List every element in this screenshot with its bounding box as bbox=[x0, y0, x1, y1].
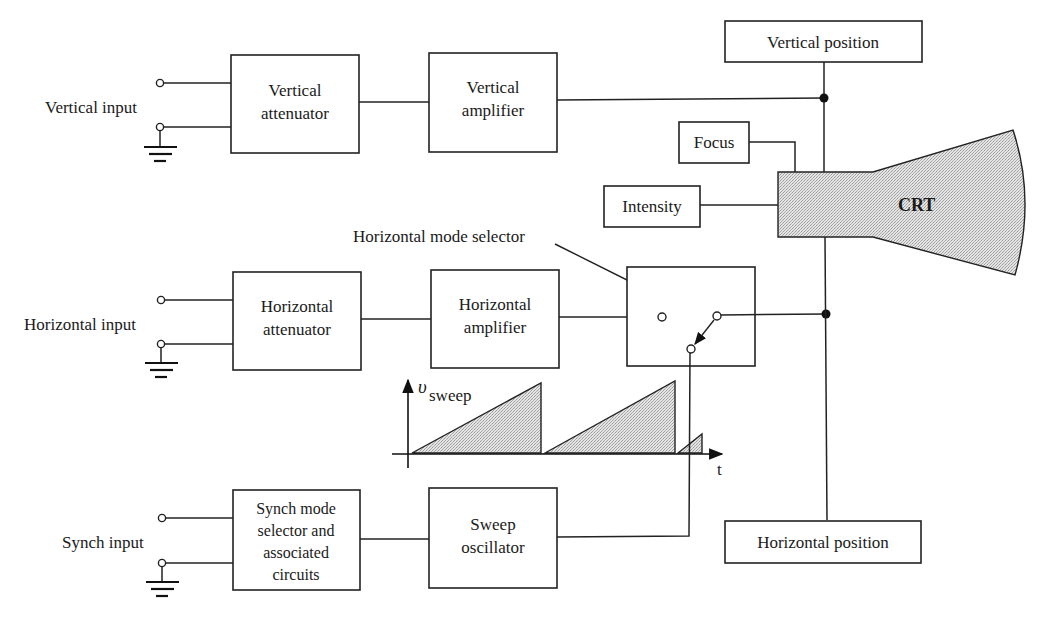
synch-mode-label-3: associated bbox=[263, 544, 329, 561]
horizontal-mode-selector-label: Horizontal mode selector bbox=[353, 227, 525, 246]
focus-block: Focus bbox=[679, 122, 749, 163]
sweep-oscillator-label-2: oscillator bbox=[461, 538, 525, 557]
focus-label: Focus bbox=[694, 133, 735, 152]
horizontal-position-block: Horizontal position bbox=[725, 521, 921, 563]
horizontal-attenuator-label-1: Horizontal bbox=[261, 297, 334, 316]
switch-terminal-amplifier bbox=[658, 313, 666, 321]
horizontal-attenuator-block: Horizontal attenuator bbox=[233, 272, 361, 370]
vertical-input-terminals bbox=[144, 79, 231, 161]
horizontal-amplifier-label-1: Horizontal bbox=[459, 295, 532, 314]
intensity-label: Intensity bbox=[622, 197, 682, 216]
vertical-attenuator-label-2: attenuator bbox=[261, 104, 329, 123]
vertical-position-block: Vertical position bbox=[725, 21, 922, 62]
synch-mode-label-4: circuits bbox=[272, 566, 319, 583]
ground-icon bbox=[145, 348, 178, 377]
horizontal-mode-selector-block bbox=[627, 267, 755, 366]
x-axis-label: t bbox=[717, 460, 722, 479]
ground-icon bbox=[144, 131, 177, 161]
horizontal-input-terminal-ground bbox=[157, 340, 164, 347]
vertical-attenuator-label-1: Vertical bbox=[269, 81, 322, 100]
sweep-oscillator-label-1: Sweep bbox=[470, 515, 515, 534]
vertical-input-label: Vertical input bbox=[45, 98, 137, 117]
horizontal-amplifier-label-2: amplifier bbox=[464, 318, 527, 337]
synch-input-terminal-signal bbox=[158, 514, 165, 521]
oscilloscope-block-diagram: Vertical input Vertical attenuator Verti… bbox=[0, 0, 1052, 628]
vertical-attenuator-block: Vertical attenuator bbox=[231, 55, 359, 153]
vertical-amplifier-label-1: Vertical bbox=[467, 78, 520, 97]
synch-mode-selector-block: Synch mode selector and associated circu… bbox=[233, 490, 360, 590]
switch-terminal-sweep bbox=[687, 345, 695, 353]
sweep-oscillator-block: Sweep oscillator bbox=[429, 488, 557, 588]
vertical-input-terminal-signal bbox=[156, 79, 163, 86]
switch-terminal-common bbox=[713, 312, 721, 320]
horizontal-deflection-bus bbox=[825, 237, 827, 520]
crt-block: CRT bbox=[778, 130, 1025, 275]
junction-dot-vertical bbox=[820, 94, 829, 103]
synch-input-terminal-ground bbox=[158, 559, 165, 566]
vertical-input-terminal-ground bbox=[156, 123, 163, 130]
vertical-position-label: Vertical position bbox=[767, 33, 879, 52]
ground-icon bbox=[146, 567, 179, 596]
horizontal-amplifier-block: Horizontal amplifier bbox=[431, 270, 559, 368]
horizontal-input-label: Horizontal input bbox=[24, 315, 136, 334]
intensity-block: Intensity bbox=[604, 186, 700, 227]
vertical-amplifier-label-2: amplifier bbox=[462, 101, 525, 120]
y-axis-label-subscript: sweep bbox=[429, 386, 471, 405]
vertical-amplifier-block: Vertical amplifier bbox=[429, 53, 557, 152]
horizontal-attenuator-label-2: attenuator bbox=[263, 320, 331, 339]
crt-label: CRT bbox=[898, 195, 935, 215]
horizontal-position-label: Horizontal position bbox=[757, 533, 889, 552]
horizontal-input-terminals bbox=[145, 296, 233, 377]
synch-input-terminals bbox=[146, 514, 233, 596]
horizontal-input-terminal-signal bbox=[157, 296, 164, 303]
y-axis-label: υ bbox=[418, 376, 427, 397]
synch-mode-label-2: selector and bbox=[258, 522, 335, 539]
sweep-waveform-graph: υ sweep t bbox=[392, 376, 722, 479]
synch-mode-label-1: Synch mode bbox=[256, 500, 336, 518]
synch-input-label: Synch input bbox=[62, 533, 144, 552]
